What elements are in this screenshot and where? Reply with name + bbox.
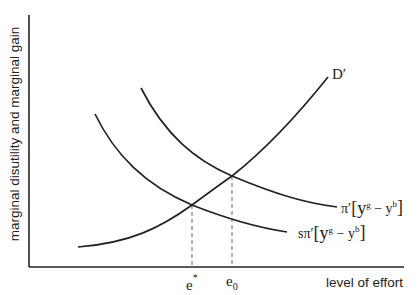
pi-prime-curve [141, 88, 337, 207]
chart: marginal disutility and marginal gain le… [0, 0, 418, 295]
e-star-label: e* [186, 272, 198, 293]
pi-prime-label: π′[yg − yb] [341, 197, 403, 218]
svg-text:sπ′[yg − yb]: sπ′[yg − yb] [298, 222, 366, 243]
d-prime-label: D′ [332, 66, 346, 82]
d-prime-curve [78, 77, 328, 247]
x-axis-label: level of effort [326, 275, 403, 290]
y-axis-label: marginal disutility and marginal gain [7, 27, 22, 242]
e0-label: e0 [226, 273, 238, 292]
s-pi-prime-curve [95, 114, 287, 232]
s-pi-prime-label: sπ′[yg − yb] [298, 222, 366, 243]
svg-text:π′[yg − yb]: π′[yg − yb] [341, 197, 403, 218]
